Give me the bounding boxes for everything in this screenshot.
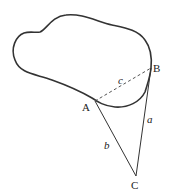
side-label-c: c <box>118 74 123 86</box>
point-label-c: C <box>131 179 138 191</box>
side-b-segment <box>95 101 136 176</box>
side-label-a: a <box>147 113 153 125</box>
diagram-canvas: A B C c a b <box>0 0 171 194</box>
point-label-b: B <box>153 62 160 74</box>
point-label-a: A <box>82 101 90 113</box>
region-boundary <box>13 15 151 107</box>
side-label-b: b <box>104 139 110 151</box>
